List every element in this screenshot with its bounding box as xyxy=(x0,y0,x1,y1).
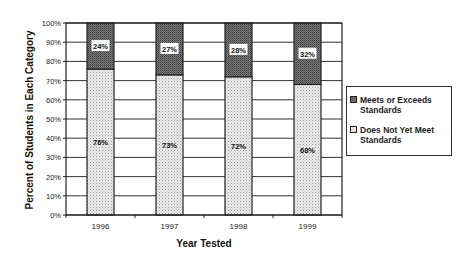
legend-item-meets: Meets or Exceeds Standards xyxy=(350,95,452,115)
legend-label: Meets or Exceeds Standards xyxy=(350,95,452,115)
data-label: 24% xyxy=(93,42,108,51)
y-tick-label: 40% xyxy=(46,134,61,143)
y-tick-label: 90% xyxy=(46,38,61,47)
bar-segment-meets: 27% xyxy=(156,23,183,75)
x-tick-label: 1996 xyxy=(92,222,110,231)
data-label: 76% xyxy=(93,138,108,147)
y-tick-label: 50% xyxy=(46,115,61,124)
x-tick-labels: 1996199719981999 xyxy=(92,222,317,231)
y-axis-label: Percent of Students in Each Category xyxy=(24,30,35,209)
legend-item-not-yet: Does Not Yet Meet Standards xyxy=(350,125,452,145)
x-axis-label: Year Tested xyxy=(176,238,231,249)
bar-segment-not-yet: 72% xyxy=(225,77,252,215)
bar-segment-meets: 28% xyxy=(225,23,252,77)
legend-label: Does Not Yet Meet Standards xyxy=(350,125,452,145)
y-tick-label: 100% xyxy=(42,19,62,28)
data-label: 27% xyxy=(162,45,177,54)
y-tick-label: 80% xyxy=(46,57,61,66)
legend: Meets or Exceeds Standards Does Not Yet … xyxy=(346,86,452,156)
y-tick-label: 60% xyxy=(46,96,61,105)
x-tick-label: 1997 xyxy=(161,222,179,231)
y-tick-label: 0% xyxy=(50,211,61,220)
data-label: 28% xyxy=(231,46,246,55)
legend-swatch-dark-icon xyxy=(350,96,357,103)
legend-swatch-light-icon xyxy=(350,126,357,133)
data-label: 72% xyxy=(231,142,246,151)
data-label: 73% xyxy=(162,141,177,150)
bar-segment-meets: 32% xyxy=(294,23,321,84)
bar-segment-not-yet: 73% xyxy=(156,75,183,215)
y-tick-label: 10% xyxy=(46,192,61,201)
y-tick-labels: 0%10%20%30%40%50%60%70%80%90%100% xyxy=(42,19,62,220)
bar-segment-meets: 24% xyxy=(87,23,114,69)
y-tick-label: 70% xyxy=(46,77,61,86)
data-label: 68% xyxy=(300,146,315,155)
x-tick-label: 1998 xyxy=(230,222,248,231)
x-tick-label: 1999 xyxy=(299,222,317,231)
data-label: 32% xyxy=(300,50,315,59)
y-tick-label: 30% xyxy=(46,153,61,162)
y-tick-label: 20% xyxy=(46,173,61,182)
bar-segment-not-yet: 76% xyxy=(87,69,114,215)
bar-segment-not-yet: 68% xyxy=(294,84,321,215)
